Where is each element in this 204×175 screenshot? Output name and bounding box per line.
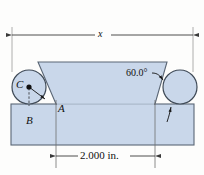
base-width-dimension-label: 2.000 in. bbox=[80, 150, 119, 161]
base-block bbox=[11, 104, 194, 145]
gauge-pin-right bbox=[163, 70, 197, 104]
point-label-c: C bbox=[16, 79, 23, 90]
dovetail-angle-callout-label: 60.0° bbox=[126, 68, 148, 78]
engineering-figure: x 2.000 in. 60.0° A B C bbox=[0, 0, 204, 175]
overall-width-dimension-label: x bbox=[98, 29, 102, 39]
point-label-a: A bbox=[58, 103, 65, 114]
point-label-b: B bbox=[26, 115, 33, 126]
dovetail-body bbox=[38, 62, 167, 104]
